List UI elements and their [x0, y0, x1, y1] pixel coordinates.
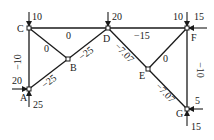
load-value-F-down: 10: [173, 11, 183, 22]
node-label-B: B: [70, 62, 77, 73]
node-label-F: F: [191, 32, 197, 43]
load-value-G-left: 5: [195, 95, 200, 106]
node-F: [185, 26, 189, 30]
load-value-D: 20: [112, 11, 122, 22]
force-DE: −7.07: [113, 40, 137, 64]
node-E: [146, 67, 150, 71]
node-labels: C D F B E A G: [17, 23, 197, 119]
node-label-A: A: [20, 92, 28, 103]
load-value-F-left: 15: [194, 11, 204, 22]
node-A: [27, 87, 31, 91]
node-label-E: E: [139, 70, 145, 81]
load-value-A-right: 20: [12, 75, 22, 86]
force-CA: −10: [12, 54, 23, 70]
force-BD: −25: [76, 44, 95, 62]
force-CB: 0: [44, 43, 49, 54]
truss-diagram: C D F B E A G 10 20 10 15 20 25 5 15 0 0…: [0, 0, 214, 140]
node-D: [106, 26, 110, 30]
force-FG: −10: [195, 62, 206, 78]
load-value-G-up: 15: [191, 121, 201, 132]
force-CD: 0: [66, 30, 71, 41]
node-label-D: D: [103, 33, 110, 44]
load-value-C: 10: [32, 11, 42, 22]
load-value-A-up: 25: [33, 99, 43, 110]
force-EF: 0: [163, 53, 168, 64]
force-AB: −25: [39, 72, 58, 90]
force-EG: −7.07: [154, 80, 178, 104]
node-G: [185, 107, 189, 111]
node-C: [27, 26, 31, 30]
force-DF: −15: [134, 30, 150, 41]
node-label-G: G: [176, 108, 183, 119]
node-B: [66, 57, 70, 61]
node-label-C: C: [17, 23, 24, 34]
